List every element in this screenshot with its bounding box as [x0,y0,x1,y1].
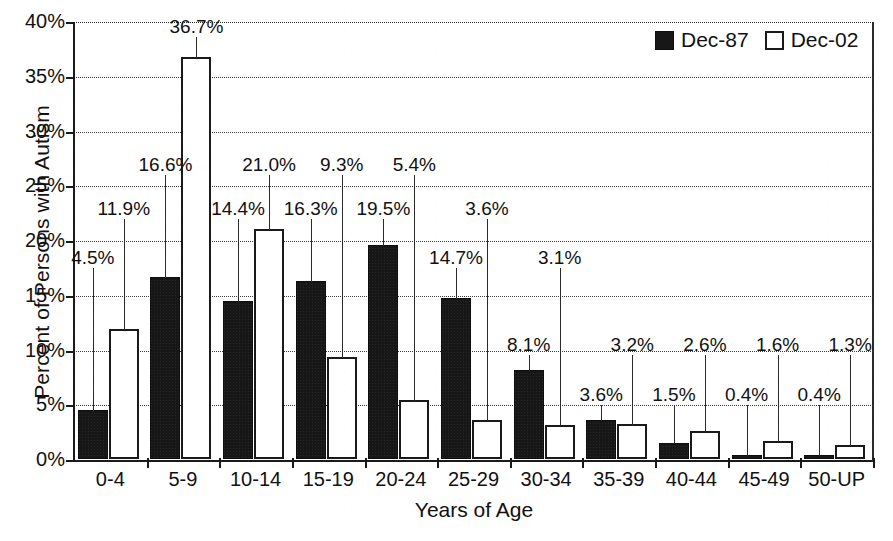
x-tick-mark [365,458,367,468]
data-label: 9.3% [320,155,363,174]
x-tick-mark [292,458,294,468]
y-tick-label: 10% [25,339,65,362]
data-label-leader-line [601,405,602,420]
data-label: 0.4% [798,385,841,404]
bar-25-29-Dec-87 [441,298,471,459]
data-label: 16.6% [139,155,193,174]
y-tick-label: 0% [36,448,65,471]
data-label: 3.2% [611,335,654,354]
data-label-leader-line [560,268,561,426]
y-tick-label: 40% [25,10,65,33]
x-axis-title: Years of Age [74,498,874,522]
x-tick-label-50-UP: 50-UP [800,468,873,491]
bar-group [365,22,438,459]
x-tick-label-20-24: 20-24 [365,468,438,491]
y-tick-label: 15% [25,284,65,307]
x-tick-label-35-39: 35-39 [582,468,655,491]
data-label-leader-line [487,219,488,420]
bar-30-34-Dec-87 [514,370,544,459]
y-tick-label: 20% [25,229,65,252]
legend-item-Dec-02: Dec-02 [765,28,859,52]
data-label: 3.1% [538,248,581,267]
x-tick-label-15-19: 15-19 [292,468,365,491]
legend-label: Dec-87 [681,28,749,52]
x-tick-label-0-4: 0-4 [74,468,147,491]
x-axis-line [73,460,874,462]
x-tick-label-30-34: 30-34 [510,468,583,491]
legend: Dec-87Dec-02 [655,28,858,52]
x-tick-mark [655,458,657,468]
data-label: 5.4% [393,155,436,174]
data-label-leader-line [383,219,384,246]
x-tick-mark [147,458,149,468]
data-label: 1.6% [756,335,799,354]
bar-45-49-Dec-02 [763,441,793,459]
x-tick-mark [800,458,802,468]
data-label: 11.9% [98,199,150,218]
data-label-leader-line [342,175,343,358]
data-label-leader-line [632,355,633,425]
y-tick-label: 30% [25,120,65,143]
data-label: 8.1% [507,335,550,354]
x-tick-label-5-9: 5-9 [147,468,220,491]
data-label: 2.6% [683,335,726,354]
data-label-leader-line [674,405,675,443]
plot-area: 0%5%10%15%20%25%30%35%40% 0-45-910-1415-… [74,22,873,461]
bar-40-44-Dec-02 [690,431,720,459]
bar-group [74,22,147,459]
data-label-leader-line [93,268,94,410]
data-label-leader-line [819,405,820,455]
bar-group [219,22,292,459]
bar-35-39-Dec-87 [586,420,616,459]
bar-30-34-Dec-02 [545,425,575,459]
y-tick-label: 35% [25,65,65,88]
data-label-leader-line [778,355,779,443]
legend-swatch-icon [765,31,784,50]
x-tick-label-10-14: 10-14 [219,468,292,491]
data-label: 4.5% [71,248,114,267]
y-tick-label: 5% [36,393,65,416]
x-tick-label-25-29: 25-29 [437,468,510,491]
bar-5-9-Dec-87 [150,277,180,459]
bar-25-29-Dec-02 [472,420,502,459]
data-label-leader-line [311,219,312,281]
data-label-leader-line [456,268,457,299]
data-label-leader-line [196,37,197,58]
legend-swatch-icon [655,31,674,50]
data-label: 19.5% [356,199,410,218]
data-label: 1.5% [652,385,695,404]
data-label-leader-line [165,175,166,278]
data-label: 21.0% [242,155,296,174]
bar-group [292,22,365,459]
data-label: 3.6% [465,199,508,218]
data-label-leader-line [269,175,270,230]
data-label: 16.3% [284,199,338,218]
y-tick-label: 25% [25,174,65,197]
x-tick-label-45-49: 45-49 [728,468,801,491]
data-label-leader-line [124,219,125,330]
bar-15-19-Dec-87 [296,281,326,459]
bar-0-4-Dec-87 [78,410,108,459]
bar-0-4-Dec-02 [109,329,139,459]
x-tick-mark [728,458,730,468]
bar-20-24-Dec-87 [368,245,398,459]
x-tick-mark [873,458,875,468]
x-tick-mark [437,458,439,468]
bar-group [437,22,510,459]
bar-40-44-Dec-87 [659,443,689,459]
data-label-leader-line [850,355,851,446]
bar-group [147,22,220,459]
data-label-leader-line [238,219,239,302]
bar-10-14-Dec-87 [223,301,253,459]
data-label: 14.4% [211,199,265,218]
data-label-leader-line [529,355,530,371]
bar-5-9-Dec-02 [181,57,211,459]
data-label-leader-line [747,405,748,455]
bar-35-39-Dec-02 [617,424,647,459]
data-label: 14.7% [429,248,483,267]
legend-label: Dec-02 [791,28,859,52]
x-tick-mark [582,458,584,468]
data-label: 0.4% [725,385,768,404]
data-label-leader-line [414,175,415,401]
x-tick-mark [219,458,221,468]
